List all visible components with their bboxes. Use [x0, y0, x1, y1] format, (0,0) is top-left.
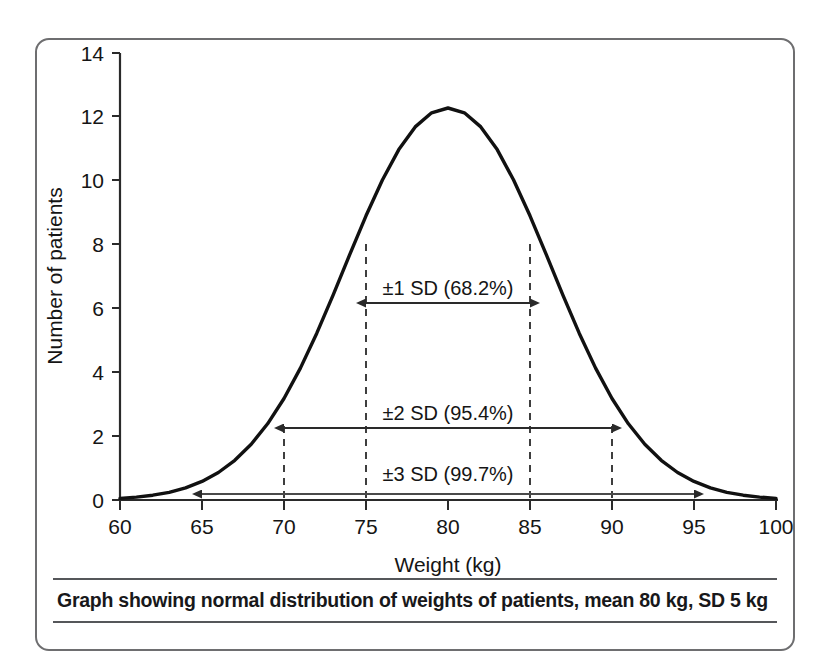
- y-tick-label-14: 14: [81, 42, 105, 65]
- y-axis-title: Number of patients: [43, 187, 66, 364]
- x-tick-label-70: 70: [272, 515, 295, 538]
- x-axis-title: Weight (kg): [395, 553, 502, 576]
- annotation-sd2: ±2 SD (95.4%): [284, 402, 612, 428]
- x-tick-label-95: 95: [682, 515, 705, 538]
- y-tick-label-8: 8: [92, 233, 104, 256]
- x-tick-label-90: 90: [600, 515, 623, 538]
- sd3-label: ±3 SD (99.7%): [382, 463, 513, 485]
- annotation-sd3: ±3 SD (99.7%): [202, 463, 694, 494]
- x-tick-label-80: 80: [436, 515, 459, 538]
- y-axis-ticks: [112, 53, 120, 500]
- x-tick-label-75: 75: [354, 515, 377, 538]
- y-tick-label-10: 10: [81, 169, 104, 192]
- figure-caption-text: Graph showing normal distribution of wei…: [57, 589, 773, 612]
- sd2-label: ±2 SD (95.4%): [382, 402, 513, 424]
- y-tick-label-2: 2: [92, 425, 104, 448]
- x-axis-ticks: [120, 500, 776, 510]
- y-tick-label-6: 6: [92, 297, 104, 320]
- x-tick-label-65: 65: [190, 515, 213, 538]
- x-tick-label-60: 60: [108, 515, 131, 538]
- annotation-sd1: ±1 SD (68.2%): [366, 277, 530, 303]
- y-tick-label-0: 0: [92, 489, 104, 512]
- sd1-label: ±1 SD (68.2%): [382, 277, 513, 299]
- normal-distribution-chart: 0 2 4 6 8 10 12 14 60 65 70 75 80 85 90 …: [0, 0, 837, 670]
- x-tick-label-85: 85: [518, 515, 541, 538]
- chart-plot-area: 0 2 4 6 8 10 12 14 60 65 70 75 80 85 90 …: [0, 0, 837, 670]
- figure-caption-block: Graph showing normal distribution of wei…: [53, 578, 777, 623]
- y-tick-label-12: 12: [81, 105, 104, 128]
- y-tick-label-4: 4: [92, 361, 104, 384]
- x-tick-label-100: 100: [758, 515, 793, 538]
